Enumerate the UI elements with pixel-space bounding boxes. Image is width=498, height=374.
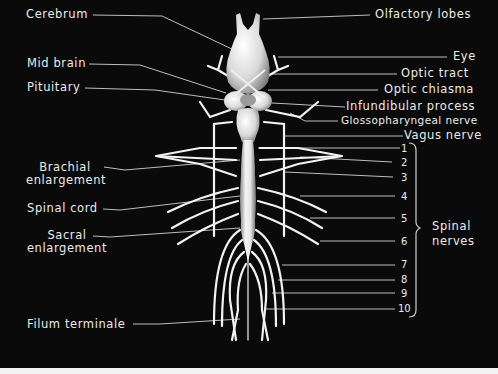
spinal-nerve-number-1: 1 — [401, 142, 407, 155]
spinal-nerve-number-4: 4 — [401, 190, 407, 203]
label-cerebrum: Cerebrum — [26, 8, 88, 21]
label-pituitary: Pituitary — [27, 81, 80, 94]
label-spinal-cord: Spinal cord — [27, 202, 98, 215]
label-sacral-enlargement: Sacral enlargement — [26, 229, 108, 255]
label-filum-terminale: Filum terminale — [27, 318, 125, 331]
spinal-nerve-number-3: 3 — [401, 171, 407, 184]
label-optic-chiasma: Optic chiasma — [384, 83, 474, 96]
label-spinal-nerves: Spinal nerves — [432, 219, 475, 249]
label-infundibular-process: Infundibular process — [346, 100, 475, 113]
label-spinal-nerves-line2: nerves — [432, 234, 475, 249]
label-olfactory-lobes: Olfactory lobes — [375, 8, 471, 21]
label-mid-brain: Mid brain — [27, 57, 86, 70]
label-glossopharyngeal-nerve: Glossopharyngeal nerve — [341, 114, 478, 127]
spinal-nerve-number-7: 7 — [401, 258, 407, 271]
label-brachial-enlargement: Brachial enlargement — [26, 161, 104, 187]
label-spinal-nerves-line1: Spinal — [432, 219, 475, 234]
spinal-nerve-number-9: 9 — [401, 287, 407, 300]
spinal-nerve-number-2: 2 — [401, 156, 407, 169]
bottom-border — [0, 368, 498, 374]
spinal-nerve-number-6: 6 — [401, 235, 407, 248]
spinal-nerve-number-5: 5 — [401, 212, 407, 225]
spinal-nerve-number-10: 10 — [398, 302, 411, 315]
label-vagus-nerve: Vagus nerve — [404, 129, 482, 142]
spinal-nerves-bracket — [409, 143, 420, 317]
spinal-cord-shape — [240, 140, 256, 262]
label-sacral-line2: enlargement — [26, 242, 108, 255]
spinal-nerve-number-8: 8 — [401, 273, 407, 286]
label-eye: Eye — [453, 50, 476, 63]
diagram-canvas: Cerebrum Mid brain Pituitary Brachial en… — [0, 0, 498, 368]
label-optic-tract: Optic tract — [401, 67, 469, 80]
label-brachial-line2: enlargement — [26, 174, 104, 187]
